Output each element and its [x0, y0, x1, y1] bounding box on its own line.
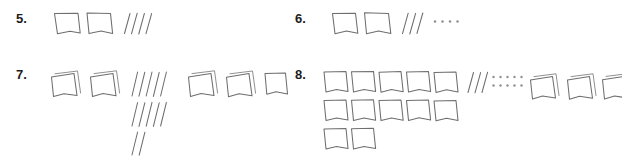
problem-6-glyphs	[290, 0, 622, 58]
square-unit-group	[324, 71, 458, 149]
problem-5: 5.	[0, 0, 290, 58]
square-unit-group	[189, 71, 288, 97]
dot-mark-group	[492, 76, 522, 87]
tally-mark-group	[468, 72, 488, 93]
problem-6: 6.	[290, 0, 622, 58]
tally-mark-group	[403, 13, 423, 34]
problem-5-glyphs	[0, 0, 290, 58]
worksheet-canvas: 5. 6.	[0, 0, 622, 167]
square-unit-group	[531, 74, 622, 100]
dot-mark-group	[434, 20, 459, 23]
problem-8-glyphs	[290, 58, 622, 167]
square-unit-group	[55, 13, 113, 34]
square-unit-group	[52, 71, 120, 97]
tally-mark-group	[125, 13, 152, 34]
tally-mark-group	[132, 72, 166, 155]
square-unit-group	[333, 13, 391, 34]
problem-7: 7.	[0, 58, 290, 167]
problem-8: 8.	[290, 58, 622, 167]
problem-7-glyphs	[0, 58, 290, 167]
